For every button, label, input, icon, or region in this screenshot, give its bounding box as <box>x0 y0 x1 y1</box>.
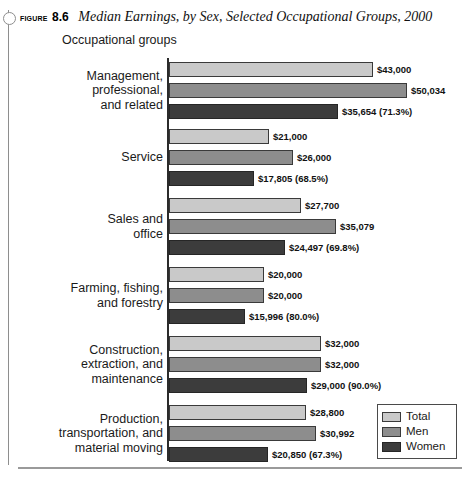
chart-legend: TotalMenWomen <box>377 404 457 459</box>
category-label: Production, transportation, and material… <box>59 412 163 456</box>
bar-group: Service$21,000$26,000$17,805 (68.5%) <box>0 129 467 192</box>
bar-value-label: $32,000 <box>325 336 359 351</box>
bar-value-label: $20,000 <box>268 267 302 282</box>
bar-value-label: $29,000 (90.0%) <box>311 378 381 393</box>
bar-value-label: $32,000 <box>325 357 359 372</box>
bar-women <box>169 171 254 186</box>
bar-value-label: $28,800 <box>310 405 344 420</box>
bar-men <box>169 83 407 98</box>
legend-label: Women <box>406 440 445 453</box>
bar-value-label: $24,497 (69.8%) <box>289 240 359 255</box>
legend-label: Men <box>406 425 428 438</box>
bar-total <box>169 62 373 77</box>
bar-value-label: $21,000 <box>273 129 307 144</box>
bar-women <box>169 447 268 462</box>
bar-group: Farming, fishing, and forestry$20,000$20… <box>0 267 467 330</box>
bar-group: Management, professional, and related$43… <box>0 62 467 125</box>
category-label: Management, professional, and related <box>87 69 163 113</box>
bar-value-label: $50,034 <box>411 83 445 98</box>
bar-value-label: $15,996 (80.0%) <box>249 309 319 324</box>
bar-group: Construction, extraction, and maintenanc… <box>0 336 467 399</box>
legend-swatch-women <box>382 442 401 452</box>
category-label: Service <box>121 150 163 165</box>
bar-men <box>169 426 316 441</box>
bar-value-label: $27,700 <box>305 198 339 213</box>
bar-total <box>169 405 306 420</box>
bar-women <box>169 104 338 119</box>
bar-value-label: $30,992 <box>320 426 354 441</box>
bar-group: Sales and office$27,700$35,079$24,497 (6… <box>0 198 467 261</box>
legend-item: Women <box>382 439 451 454</box>
bar-total <box>169 336 321 351</box>
bar-value-label: $43,000 <box>377 62 411 77</box>
bar-total <box>169 198 301 213</box>
legend-swatch-men <box>382 427 401 437</box>
bar-value-label: $35,079 <box>340 219 374 234</box>
bar-men <box>169 150 293 165</box>
bar-men <box>169 288 264 303</box>
bar-total <box>169 267 264 282</box>
bar-women <box>169 378 307 393</box>
bar-value-label: $35,654 (71.3%) <box>342 104 412 119</box>
category-label: Sales and office <box>107 212 163 241</box>
bar-men <box>169 219 336 234</box>
bar-women <box>169 309 245 324</box>
bar-value-label: $17,805 (68.5%) <box>258 171 328 186</box>
legend-item: Men <box>382 424 451 439</box>
bar-value-label: $20,850 (67.3%) <box>272 447 342 462</box>
bar-men <box>169 357 321 372</box>
bar-women <box>169 240 285 255</box>
bar-total <box>169 129 269 144</box>
category-label: Construction, extraction, and maintenanc… <box>81 343 163 387</box>
legend-item: Total <box>382 409 451 424</box>
category-label: Farming, fishing, and forestry <box>71 281 163 310</box>
legend-swatch-total <box>382 412 401 422</box>
bar-value-label: $20,000 <box>268 288 302 303</box>
legend-label: Total <box>406 410 430 423</box>
bar-value-label: $26,000 <box>297 150 331 165</box>
